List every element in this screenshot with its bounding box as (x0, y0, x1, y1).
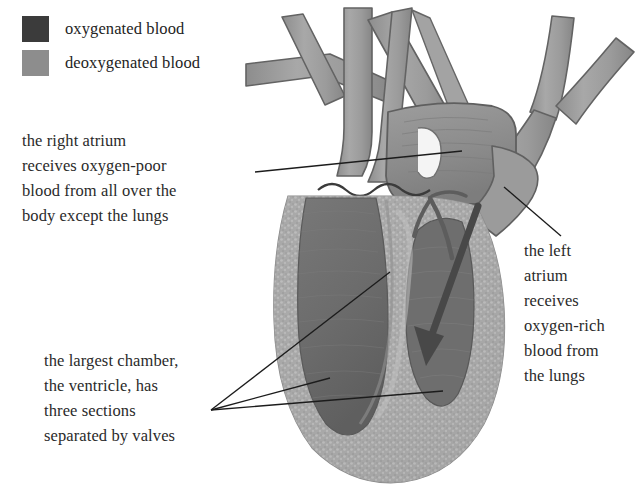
atrioventricular-valve-line (318, 184, 430, 196)
annotation-line: blood from all over the (22, 178, 176, 203)
great-vessels-group (246, 8, 634, 226)
annotation-line: the largest chamber, (44, 348, 178, 373)
leader-right-atrium (255, 151, 462, 172)
legend-label-deoxygenated: deoxygenated blood (65, 53, 200, 73)
atria-group (318, 103, 538, 236)
ventricle-group (274, 192, 505, 483)
ventricle-inner-ridge (378, 212, 410, 416)
annotation-line: the ventricle, has (44, 373, 178, 398)
annotation-line: the right atrium (22, 128, 176, 153)
annotation-line: the lungs (524, 363, 605, 388)
annotation-line: receives oxygen-poor (22, 153, 176, 178)
aortic-arch-right-limb (556, 38, 634, 124)
leader-left-atrium (504, 187, 561, 236)
aortic-arch-left-limb (530, 16, 574, 120)
coronary-vessel-branch (414, 200, 430, 236)
annotation-right-atrium: the right atrium receives oxygen-poor bl… (22, 128, 176, 228)
vessel-branch-upper-left (282, 14, 345, 105)
annotation-line: three sections (44, 398, 178, 423)
annotation-left-atrium: the left atrium receives oxygen-rich blo… (524, 238, 605, 388)
annotation-line: receives (524, 288, 605, 313)
annotation-ventricle: the largest chamber, the ventricle, has … (44, 348, 178, 448)
right-ventricle-cavity (406, 218, 474, 406)
annotation-line: body except the lungs (22, 203, 176, 228)
pulmonary-vein-branch (368, 8, 412, 182)
coronary-vessel-upper (432, 192, 466, 196)
interventricular-septum (360, 200, 392, 424)
pulmonary-artery-branch (368, 12, 452, 128)
leader-ventricle-fan (211, 272, 443, 410)
vessel-trunk-left (337, 8, 372, 176)
legend-item-deoxygenated: deoxygenated blood (22, 48, 262, 78)
legend-swatch-oxygenated (22, 16, 49, 42)
annotation-line: the left (524, 238, 605, 263)
atrium-opening (418, 128, 441, 178)
vessel-crossing (412, 10, 470, 116)
annotation-line: oxygen-rich (524, 313, 605, 338)
coronary-vessel-main (430, 198, 452, 258)
ventricle-wall (274, 196, 505, 483)
legend: oxygenated blood deoxygenated blood (22, 14, 262, 82)
superior-vena-cava (246, 54, 392, 102)
annotation-line: atrium (524, 263, 605, 288)
left-atrium-chamber (468, 146, 538, 236)
ventricle-wall-texture (274, 196, 505, 483)
annotation-line: separated by valves (44, 423, 178, 448)
annotation-line: blood from (524, 338, 605, 363)
aortic-arch-descending (462, 110, 556, 226)
legend-label-oxygenated: oxygenated blood (65, 19, 184, 39)
left-ventricle-cavity (298, 198, 388, 435)
right-atrium-chamber (386, 103, 516, 204)
leader-lines (211, 151, 561, 410)
legend-item-oxygenated: oxygenated blood (22, 14, 262, 44)
blood-flow-arrow (414, 206, 478, 366)
heart-diagram-page: oxygenated blood deoxygenated blood the … (0, 0, 643, 497)
legend-swatch-deoxygenated (22, 50, 49, 76)
